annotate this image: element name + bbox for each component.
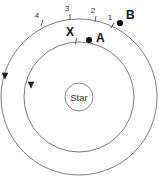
tick-label-1: 1 — [108, 13, 113, 22]
orbit-tick-4 — [41, 20, 43, 26]
diagram-canvas: Star X1234 AB — [0, 0, 159, 179]
orbit-tick-X — [76, 38, 77, 44]
planet-dot-B — [117, 20, 123, 26]
tick-label-4: 4 — [35, 11, 40, 20]
inner-orbit-direction-arrow — [28, 82, 34, 89]
tick-label-2: 2 — [91, 6, 96, 15]
orbit-diagram: Star X1234 AB — [0, 0, 159, 179]
planet-label-A: A — [96, 31, 105, 45]
star-label: Star — [70, 92, 87, 103]
planet-label-B: B — [126, 8, 135, 22]
planet-dot-A — [86, 37, 92, 43]
tick-label-X: X — [66, 25, 74, 39]
tick-label-3: 3 — [65, 4, 70, 13]
